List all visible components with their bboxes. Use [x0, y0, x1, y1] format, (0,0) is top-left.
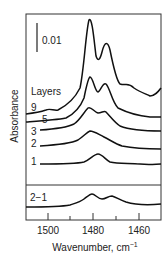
spectrum-9	[26, 20, 161, 114]
legend-title: Layers	[31, 86, 61, 97]
series-label-1: 1	[31, 156, 37, 167]
spectrum-2	[40, 131, 161, 149]
series-label-difference: 2−1	[30, 192, 47, 203]
series-label-3: 3	[31, 126, 37, 137]
scale-bar-label: 0.01	[42, 35, 62, 46]
spectrum-1	[40, 154, 161, 164]
x-tick-label-1500: 1500	[37, 225, 60, 236]
series-label-2: 2	[31, 138, 37, 149]
x-tick-label-1460: 1460	[128, 225, 151, 236]
series-label-5: 5	[42, 114, 48, 125]
x-axis-label: Wavenumber, cm−1	[52, 241, 138, 253]
ir-spectrum-chart: 0.01 9 5 3 2 1 2−1 Layers 1500 1480 1460…	[0, 0, 168, 264]
series-label-9: 9	[31, 102, 37, 113]
y-axis-label: Absorbance	[9, 89, 20, 143]
x-tick-label-1480: 1480	[82, 225, 105, 236]
